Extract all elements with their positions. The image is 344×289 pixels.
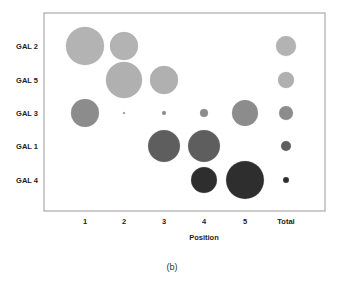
row-label: GAL 4 xyxy=(16,176,39,185)
bubble-gal1-total xyxy=(281,141,291,151)
bubble-gal1-4 xyxy=(188,130,220,162)
row-label: GAL 2 xyxy=(16,42,38,51)
bubble-chart: GAL 2GAL 5GAL 3GAL 1GAL 4 12345Total Pos… xyxy=(0,0,344,289)
bubble-gal3-4 xyxy=(200,109,208,117)
row-label: GAL 5 xyxy=(16,76,38,85)
row-label: GAL 1 xyxy=(16,142,38,151)
bubble-gal2-total xyxy=(276,36,296,56)
column-label: Total xyxy=(277,217,294,226)
bubble-gal1-3 xyxy=(148,130,180,162)
bubble-gal2-2 xyxy=(110,32,138,60)
column-label: 4 xyxy=(202,217,207,226)
y-axis-labels: GAL 2GAL 5GAL 3GAL 1GAL 4 xyxy=(16,42,39,185)
bubble-gal3-5 xyxy=(232,100,258,126)
bubble-gal5-3 xyxy=(150,66,178,94)
bubble-gal3-1 xyxy=(71,99,99,127)
bubble-gal3-total xyxy=(279,106,293,120)
x-axis-labels: 12345Total xyxy=(83,217,295,226)
bubble-gal2-1 xyxy=(66,27,104,65)
column-label: 5 xyxy=(243,217,247,226)
row-label: GAL 3 xyxy=(16,109,38,118)
bubble-gal4-5 xyxy=(226,161,264,199)
x-axis-title: Position xyxy=(189,233,219,242)
column-label: 2 xyxy=(122,217,126,226)
bubble-gal5-total xyxy=(278,72,294,88)
bubble-gal5-2 xyxy=(106,62,142,98)
figure-caption: (b) xyxy=(167,262,178,272)
column-label: 1 xyxy=(83,217,87,226)
bubble-gal3-3 xyxy=(162,111,166,115)
column-label: 3 xyxy=(162,217,166,226)
bubble-gal4-4 xyxy=(191,167,217,193)
bubble-gal3-2 xyxy=(123,112,125,114)
bubble-gal4-total xyxy=(283,177,289,183)
